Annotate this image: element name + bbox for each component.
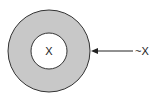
- inner-label: X: [45, 45, 53, 57]
- outer-label: ~X: [135, 45, 149, 57]
- complement-diagram: X ~X: [0, 0, 158, 101]
- arrow-head-icon: [91, 48, 98, 54]
